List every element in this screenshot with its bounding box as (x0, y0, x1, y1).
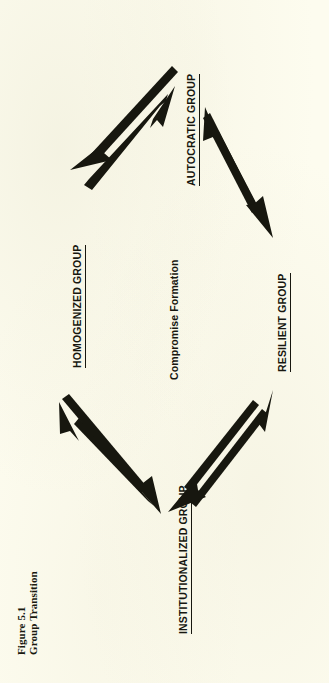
node-label-homogenized-group: HOMOGENIZED GROUP (72, 245, 86, 368)
arrow-homogenized-to-institutionalized (62, 394, 161, 514)
node-label-autocratic-group: AUTOCRATIC GROUP (186, 74, 200, 186)
arrow-institutionalized-to-resilient (190, 390, 273, 507)
figure-caption-title: Group Transition (27, 571, 39, 655)
node-label-institutionalized-group: INSTITUTIONALIZED GROUP (178, 485, 192, 634)
figure-page: AUTOCRATIC GROUP HOMOGENIZED GROUP RESIL… (0, 0, 329, 683)
arrow-homogenized-to-autocratic (84, 86, 175, 190)
figure-caption-number: Figure 5.1 (15, 571, 27, 655)
arrow-autocratic-to-resilient (203, 113, 273, 238)
center-label-compromise-formation: Compromise Formation (169, 260, 181, 380)
figure-caption: Figure 5.1 Group Transition (15, 571, 40, 655)
node-label-resilient-group: RESILIENT GROUP (277, 273, 291, 372)
